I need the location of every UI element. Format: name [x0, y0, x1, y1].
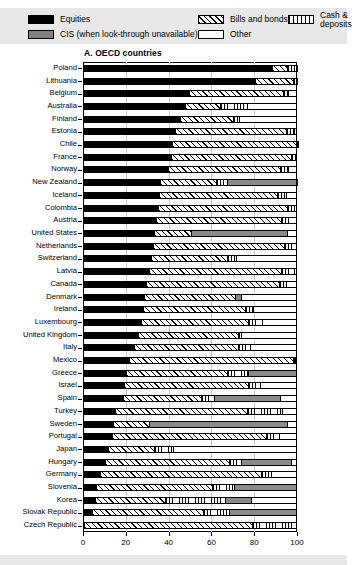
bar-row[interactable]	[83, 522, 297, 529]
y-axis-tick	[78, 297, 82, 298]
y-axis-label: Korea	[57, 496, 77, 504]
y-axis-tick	[78, 208, 82, 209]
bar-row[interactable]	[83, 471, 297, 478]
y-axis-tick	[78, 348, 82, 349]
bar-segment-cash	[227, 255, 236, 262]
bar-segment-equities	[83, 509, 92, 516]
bar-row[interactable]	[83, 192, 297, 199]
bar-segment-other	[291, 459, 297, 466]
y-axis-label: Japan	[56, 445, 77, 453]
bar-segment-cash	[248, 319, 262, 326]
bar-row[interactable]	[83, 459, 297, 466]
bar-segment-other	[280, 395, 297, 402]
bar-segment-bills	[129, 357, 293, 364]
y-axis-label: United States	[31, 229, 77, 237]
bar-segment-equities	[83, 357, 129, 364]
y-axis-tick	[78, 183, 82, 184]
bar-row[interactable]	[83, 344, 297, 351]
y-axis-label: Norway	[51, 165, 77, 173]
bar-segment-bills	[272, 65, 287, 72]
bar-segment-other	[173, 446, 297, 453]
bar-segment-other	[241, 294, 297, 301]
bar-segment-cis	[248, 370, 297, 377]
y-axis-label: Latvia	[57, 267, 77, 275]
bar-row[interactable]	[83, 395, 297, 402]
bar-segment-other	[241, 332, 297, 339]
y-axis-label: Portugal	[49, 432, 77, 440]
bar-segment-cash	[201, 395, 214, 402]
bar-row[interactable]	[83, 433, 297, 440]
bar-row[interactable]	[83, 205, 297, 212]
bar-row[interactable]	[83, 446, 297, 453]
bar-row[interactable]	[83, 332, 297, 339]
bar-row[interactable]	[83, 154, 297, 161]
bar-segment-other	[279, 433, 297, 440]
bar-row[interactable]	[83, 497, 297, 504]
y-axis-label: Chile	[60, 140, 77, 148]
y-axis-tick	[78, 310, 82, 311]
bar-row[interactable]	[83, 128, 297, 135]
bar-segment-cash	[261, 471, 272, 478]
bar-row[interactable]	[83, 217, 297, 224]
bar-row[interactable]	[83, 90, 297, 97]
x-axis-tick	[211, 532, 212, 536]
y-axis-tick	[78, 411, 82, 412]
bar-segment-other	[271, 471, 297, 478]
bar-segment-bills	[180, 116, 232, 123]
bar-row[interactable]	[83, 179, 297, 186]
stacked-bar-plot	[83, 62, 297, 532]
bar-segment-equities	[83, 128, 175, 135]
bar-segment-equities	[83, 116, 180, 123]
bar-segment-bills	[92, 509, 203, 516]
bar-row[interactable]	[83, 509, 297, 516]
equities-swatch-icon	[28, 15, 54, 24]
bar-row[interactable]	[83, 243, 297, 250]
legend-label-cash: Cash & deposits	[320, 11, 350, 29]
bar-row[interactable]	[83, 421, 297, 428]
bar-row[interactable]	[83, 103, 297, 110]
legend-item-cash: Cash & deposits	[288, 13, 350, 26]
bar-row[interactable]	[83, 166, 297, 173]
bar-segment-other	[288, 90, 297, 97]
bar-row[interactable]	[83, 268, 297, 275]
bar-row[interactable]	[83, 370, 297, 377]
bar-row[interactable]	[83, 116, 297, 123]
bar-segment-equities	[83, 90, 189, 97]
bar-row[interactable]	[83, 484, 297, 491]
legend-item-equities: Equities	[28, 13, 198, 26]
bar-row[interactable]	[83, 294, 297, 301]
bar-row[interactable]	[83, 319, 297, 326]
bar-segment-bills	[105, 459, 228, 466]
bar-row[interactable]	[83, 281, 297, 288]
bar-segment-equities	[83, 382, 124, 389]
bar-segment-cash	[248, 382, 260, 389]
bar-segment-equities	[83, 281, 146, 288]
y-axis-label: Slovak Republic	[23, 508, 77, 516]
x-axis-tick	[169, 532, 170, 536]
bar-row[interactable]	[83, 230, 297, 237]
bar-row[interactable]	[83, 306, 297, 313]
y-axis-tick	[78, 145, 82, 146]
y-axis-label: Finland	[52, 115, 77, 123]
y-axis-label: Czech Republic	[24, 521, 77, 529]
bar-row[interactable]	[83, 78, 297, 85]
y-axis-tick	[78, 373, 82, 374]
bar-row[interactable]	[83, 357, 297, 364]
bar-segment-cash	[212, 484, 233, 491]
bar-segment-bills	[126, 370, 228, 377]
bar-segment-bills	[134, 344, 238, 351]
y-axis-tick	[78, 449, 82, 450]
bar-segment-cis	[225, 497, 251, 504]
bar-row[interactable]	[83, 141, 297, 148]
bar-segment-cash	[203, 509, 229, 516]
bar-segment-cash	[247, 408, 282, 415]
y-axis-tick	[78, 361, 82, 362]
bar-row[interactable]	[83, 65, 297, 72]
bar-segment-cash	[287, 65, 296, 72]
y-axis-label: Sweden	[50, 420, 77, 428]
bar-segment-cis	[241, 459, 290, 466]
bar-row[interactable]	[83, 382, 297, 389]
bar-row[interactable]	[83, 255, 297, 262]
y-axis-labels: PolandLithuaniaBelgiumAustraliaFinlandEs…	[0, 62, 80, 532]
bar-row[interactable]	[83, 408, 297, 415]
